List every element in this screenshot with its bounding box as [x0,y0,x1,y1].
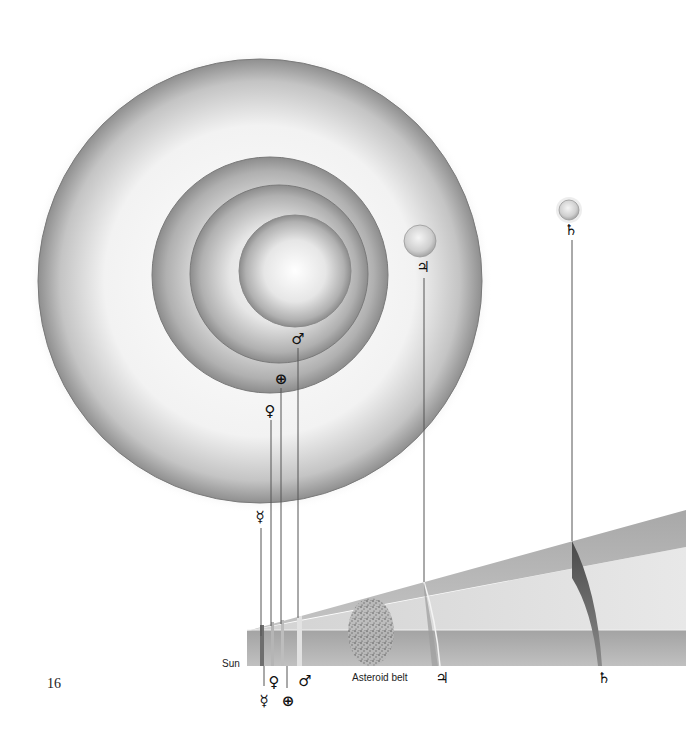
distance-band [247,510,686,666]
sun-label: Sun [222,658,240,669]
mars-symbol: ♂ [291,330,304,348]
venus-symbol-bottom: ♀ [269,673,280,691]
orbit-spheres [28,49,582,513]
mars-orbit-sphere [239,215,351,327]
saturn-symbol-bottom: ♄ [597,669,610,687]
saturn-sphere [559,200,579,220]
solar-system-diagram: ☿ ♀ ⊕ ♂ ♃ ♄ Sun ☿ ♀ ⊕ ♂ Asteroid belt ♃ … [0,0,686,746]
earth-symbol: ⊕ [275,370,288,388]
saturn-symbol: ♄ [564,221,577,239]
jupiter-sphere [404,225,436,257]
venus-cut [271,622,274,666]
mercury-symbol: ☿ [255,508,264,526]
jupiter-symbol-bottom: ♃ [435,669,448,687]
venus-symbol: ♀ [265,402,276,420]
mars-symbol-bottom: ♂ [298,672,311,690]
band-lower-face [247,630,686,666]
earth-symbol-bottom: ⊕ [282,692,295,710]
band-middle-face [247,547,686,631]
asteroid-belt-label: Asteroid belt [352,672,408,683]
asteroid-belt-patch [348,598,394,666]
jupiter-symbol: ♃ [416,258,429,276]
mars-cut [297,616,302,666]
mercury-symbol-bottom: ☿ [259,692,268,710]
earth-cut [281,620,284,666]
page-number: 16 [47,676,61,691]
